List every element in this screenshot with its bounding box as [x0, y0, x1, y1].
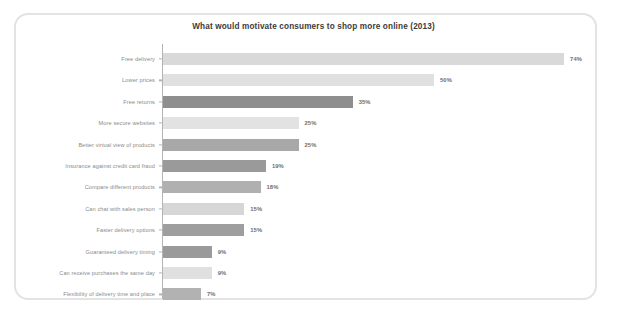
bar [163, 246, 212, 258]
bar-value-label: 15% [250, 227, 262, 233]
bar-category-label: Better virtual view of products [79, 142, 155, 148]
bar-row: Free returns35% [0, 96, 627, 108]
bar-value-label: 18% [267, 184, 279, 190]
bar-value-label: 7% [207, 291, 216, 297]
bar-value-label: 74% [570, 56, 582, 62]
bar-row: Guaranteed delivery timing9% [0, 246, 627, 258]
bar-row: Can chat with sales person15% [0, 203, 627, 215]
axis-tick [159, 80, 163, 81]
bar-row: Better virtual view of products25% [0, 139, 627, 151]
bar-category-label: More secure websites [99, 120, 155, 126]
bar-row: Insurance against credit card fraud19% [0, 160, 627, 172]
bar [163, 203, 244, 215]
bar-category-label: Free delivery [121, 56, 155, 62]
axis-tick [159, 58, 163, 59]
bar-value-label: 9% [218, 270, 227, 276]
bar [163, 139, 299, 151]
bar-row: More secure websites25% [0, 117, 627, 129]
bar [163, 267, 212, 279]
axis-tick [159, 251, 163, 252]
axis-tick [159, 272, 163, 273]
bar-value-label: 9% [218, 249, 227, 255]
bar-category-label: Free returns [123, 99, 155, 105]
axis-tick [159, 230, 163, 231]
bar-row: Lower prices50% [0, 74, 627, 86]
bar-row: Can receive purchases the same day9% [0, 267, 627, 279]
bar [163, 224, 244, 236]
bar-value-label: 15% [250, 206, 262, 212]
bar-category-label: Can receive purchases the same day [59, 270, 155, 276]
axis-tick [159, 144, 163, 145]
bar-value-label: 25% [305, 120, 317, 126]
bar [163, 181, 261, 193]
bar-row: Faster delivery options15% [0, 224, 627, 236]
bar-category-label: Lower prices [122, 77, 155, 83]
bar-value-label: 35% [359, 99, 371, 105]
bar-value-label: 25% [305, 142, 317, 148]
axis-tick [159, 294, 163, 295]
bar-value-label: 50% [440, 77, 452, 83]
axis-tick [159, 208, 163, 209]
bar-category-label: Faster delivery options [96, 227, 155, 233]
bar-value-label: 19% [272, 163, 284, 169]
bar-category-label: Flexibility of delivery time and place [63, 291, 155, 297]
axis-tick [159, 123, 163, 124]
axis-tick [159, 101, 163, 102]
bar-category-label: Guaranteed delivery timing [86, 249, 155, 255]
bar-row: Free delivery74% [0, 53, 627, 65]
bar-category-label: Insurance against credit card fraud [65, 163, 155, 169]
bar [163, 96, 353, 108]
bar [163, 53, 564, 65]
axis-tick [159, 187, 163, 188]
bar-row: Flexibility of delivery time and place7% [0, 288, 627, 300]
bar [163, 160, 266, 172]
bar [163, 288, 201, 300]
bar-chart-plot-area: Free delivery74%Lower prices50%Free retu… [0, 0, 627, 327]
bar-row: Compare different products18% [0, 181, 627, 193]
bar [163, 74, 434, 86]
bar [163, 117, 299, 129]
bar-category-label: Compare different products [85, 184, 155, 190]
axis-tick [159, 165, 163, 166]
bar-category-label: Can chat with sales person [85, 206, 155, 212]
